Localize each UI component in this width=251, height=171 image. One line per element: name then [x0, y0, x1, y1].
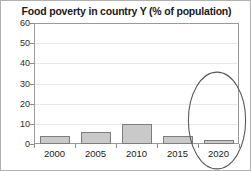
x-tick-label-2000: 2000	[44, 148, 65, 159]
y-axis: 0102030405060	[1, 23, 30, 144]
x-tick-mark	[239, 144, 240, 148]
x-tick-mark	[75, 144, 76, 148]
y-tick-mark	[30, 43, 34, 44]
x-tick-mark	[198, 144, 199, 148]
x-tick-label-2020: 2020	[208, 148, 229, 159]
y-tick-label: 40	[20, 58, 30, 68]
x-tick-mark	[116, 144, 117, 148]
chart-title: Food poverty in country Y (% of populati…	[1, 5, 251, 17]
y-tick-label: 60	[20, 18, 30, 28]
gridline	[35, 63, 238, 64]
bar-2010	[122, 124, 152, 144]
chart-figure: Food poverty in country Y (% of populati…	[0, 0, 251, 171]
x-tick-label-2010: 2010	[126, 148, 147, 159]
y-tick-label: 20	[20, 99, 30, 109]
y-tick-label: 10	[20, 119, 30, 129]
y-tick-mark	[30, 144, 34, 145]
gridline	[35, 104, 238, 105]
y-tick-mark	[30, 63, 34, 64]
y-tick-mark	[30, 23, 34, 24]
y-tick-mark	[30, 84, 34, 85]
x-tick-label-2015: 2015	[167, 148, 188, 159]
bar-2000	[40, 136, 70, 144]
gridline	[35, 84, 238, 85]
gridline	[35, 43, 238, 44]
x-tick-mark	[34, 144, 35, 148]
y-tick-label: 30	[20, 79, 30, 89]
x-tick-label-2005: 2005	[85, 148, 106, 159]
x-tick-mark	[157, 144, 158, 148]
y-tick-mark	[30, 124, 34, 125]
bar-2020	[204, 140, 234, 144]
y-tick-mark	[30, 104, 34, 105]
bar-2015	[163, 136, 193, 144]
bar-2005	[81, 132, 111, 144]
y-tick-label: 50	[20, 38, 30, 48]
